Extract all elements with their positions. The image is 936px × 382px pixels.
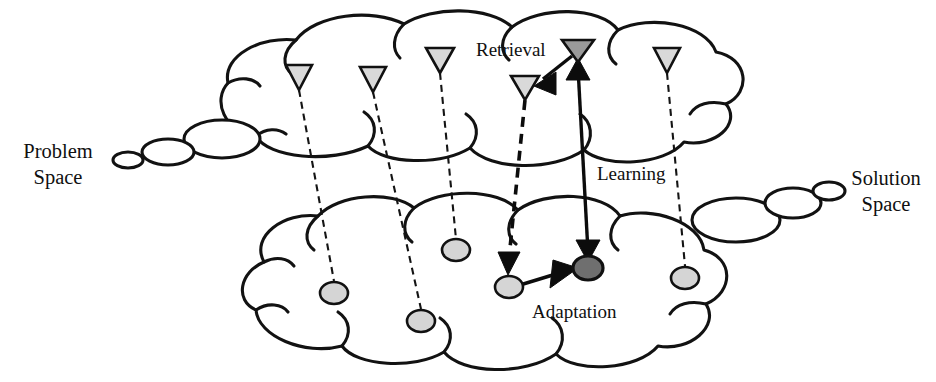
- solution-node-s2[interactable]: [407, 310, 435, 332]
- solution-node-s3[interactable]: [442, 239, 470, 261]
- solution-node-s1[interactable]: [320, 282, 348, 304]
- retrieval-label: Retrieval: [476, 39, 546, 60]
- solution-node-s5-selected[interactable]: [573, 256, 603, 280]
- solution-node-s6[interactable]: [671, 267, 699, 289]
- problem-space-cloud: [113, 11, 743, 168]
- solution-space-cloud: [242, 182, 845, 370]
- thought-bubble-mid-left: [142, 139, 194, 165]
- solution-node-s4[interactable]: [495, 276, 523, 298]
- diagram-canvas: Retrieval Learning Adaptation: [0, 0, 936, 382]
- problem-space-label: Problem Space: [8, 138, 108, 190]
- adaptation-label: Adaptation: [532, 301, 617, 322]
- diagram-page: Retrieval Learning Adaptation Problem Sp…: [0, 0, 936, 382]
- solution-space-label: Solution Space: [836, 165, 936, 217]
- learning-label: Learning: [597, 163, 666, 184]
- thought-bubble-small-left: [113, 152, 143, 168]
